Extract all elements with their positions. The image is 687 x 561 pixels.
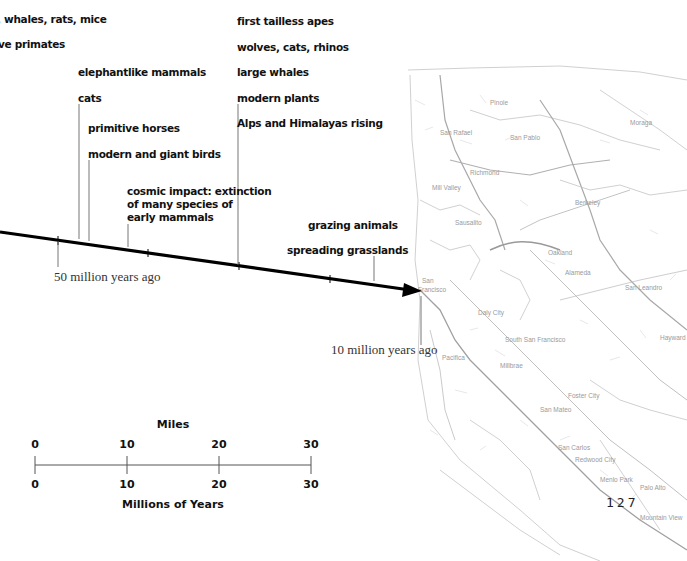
marker-10-million: 10 million years ago [331, 342, 438, 358]
scale-title-years: Millions of Years [122, 498, 224, 511]
scale-bottom-tick-0: 0 [31, 478, 39, 491]
scale-top-tick-30: 30 [303, 438, 318, 451]
event-label-alps: Alps and Himalayas rising [237, 116, 383, 130]
page-number: 127 [606, 495, 638, 510]
scale-bottom-tick-30: 30 [303, 478, 318, 491]
event-label-plants: modern plants [237, 91, 319, 105]
scale-bottom-tick-10: 10 [119, 478, 134, 491]
event-label-birds: modern and giant birds [88, 147, 221, 161]
event-label-grazing: grazing animals [308, 218, 398, 232]
scale-top-tick-20: 20 [211, 438, 226, 451]
scale-top-tick-10: 10 [119, 438, 134, 451]
scale-top-tick-0: 0 [31, 438, 39, 451]
marker-50-million: 50 million years ago [54, 269, 161, 285]
event-label-wolves: wolves, cats, rhinos [237, 40, 349, 54]
timeline-arrowhead [402, 283, 422, 297]
scale-title-miles: Miles [157, 418, 190, 431]
event-label-cosmic-1: cosmic impact: extinction [127, 184, 271, 198]
event-label-cosmic-2: of many species of [127, 197, 233, 211]
event-label-apes: first tailless apes [237, 14, 334, 28]
event-label-grasslands: spreading grasslands [287, 243, 408, 257]
event-label-large-whales: large whales [237, 65, 309, 79]
event-label-elephantlike: elephantlike mammals [78, 65, 206, 79]
event-label-primates: ve primates [0, 37, 65, 51]
event-label-cosmic-3: early mammals [127, 210, 213, 224]
scale-bottom-tick-20: 20 [211, 478, 226, 491]
event-label-cats: cats [78, 91, 101, 105]
event-label-horses: primitive horses [88, 121, 180, 135]
event-label-whales: , whales, rats, mice [0, 12, 107, 26]
